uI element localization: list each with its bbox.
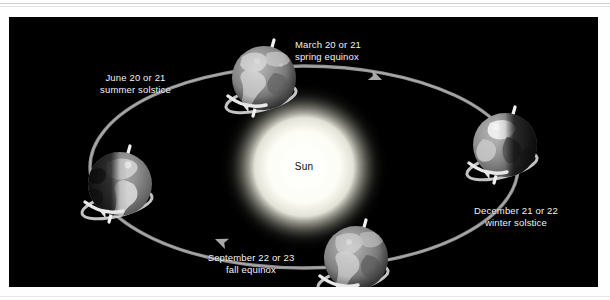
label-fall-equinox-season: fall equinox	[176, 264, 326, 276]
sun-label: Sun	[274, 161, 334, 172]
label-summer-solstice: June 20 or 21 summer solstice	[78, 72, 193, 95]
orbit-arrowhead-lower-left	[213, 234, 229, 249]
label-spring-equinox-date: March 20 or 21	[295, 39, 361, 50]
scan-artifact-line	[0, 296, 610, 297]
label-summer-solstice-season: summer solstice	[78, 84, 193, 96]
scan-artifact-line	[0, 3, 610, 4]
label-summer-solstice-date: June 20 or 21	[105, 72, 165, 83]
earth-winter-solstice	[464, 107, 539, 185]
diagram-panel: March 20 or 21 spring equinox June 20 or…	[9, 17, 598, 287]
label-spring-equinox: March 20 or 21 spring equinox	[295, 39, 361, 62]
label-winter-solstice-season: winter solstice	[446, 217, 586, 229]
label-fall-equinox: September 22 or 23 fall equinox	[176, 252, 326, 275]
figure-seasons-diagram: March 20 or 21 spring equinox June 20 or…	[0, 0, 610, 300]
label-winter-solstice: December 21 or 22 winter solstice	[446, 205, 586, 228]
label-winter-solstice-date: December 21 or 22	[474, 205, 558, 216]
label-fall-equinox-date: September 22 or 23	[208, 252, 295, 263]
label-spring-equinox-season: spring equinox	[295, 51, 361, 63]
scan-artifact-line	[0, 6, 610, 7]
